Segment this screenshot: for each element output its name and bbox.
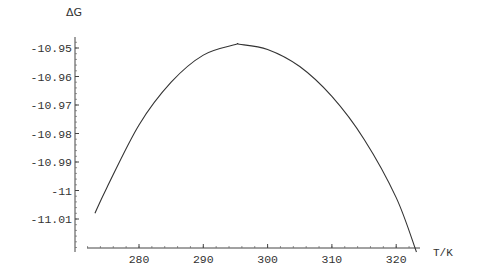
y-tick-label: -10.98 [31, 128, 73, 141]
y-axis: -10.95-10.96-10.97-10.98-10.99-11-11.01 [31, 37, 79, 252]
delta-g-curve [95, 43, 417, 252]
y-tick-label: -10.95 [31, 42, 73, 55]
x-axis-label: T/K [433, 247, 453, 259]
y-tick-label: -10.97 [31, 99, 72, 112]
x-axis: 280290300310320 [87, 244, 420, 266]
x-tick-label: 320 [386, 253, 407, 266]
y-tick-label: -11.01 [31, 213, 73, 226]
y-axis-label: ΔG [66, 6, 82, 19]
x-tick-label: 300 [257, 253, 278, 266]
x-tick-label: 280 [129, 253, 150, 266]
y-tick-label: -10.99 [31, 156, 73, 169]
x-tick-label: 310 [322, 253, 343, 266]
x-tick-label: 290 [193, 253, 214, 266]
y-tick-label: -10.96 [31, 71, 73, 84]
y-tick-label: -11 [51, 185, 72, 198]
chart: -10.95-10.96-10.97-10.98-10.99-11-11.01 … [0, 0, 482, 276]
